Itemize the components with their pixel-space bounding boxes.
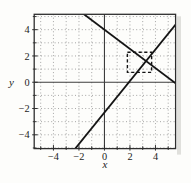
x-axis-label: x (101, 158, 107, 170)
x-tick-label: 4 (153, 151, 158, 162)
y-tick-label: 0 (25, 77, 30, 88)
x-tick-label: −2 (73, 151, 84, 162)
plot-render-root: −4−2024−4−2024 (0, 0, 191, 183)
figure: −4−2024−4−2024 y x (0, 0, 191, 183)
y-tick-label: 4 (25, 24, 30, 35)
y-axis-label: y (8, 76, 14, 88)
x-tick-label: 2 (127, 151, 132, 162)
y-tick-label: 2 (25, 51, 30, 62)
y-tick-label: −2 (19, 103, 30, 114)
plot-canvas: −4−2024−4−2024 y x (0, 0, 191, 183)
y-tick-label: −4 (19, 129, 30, 140)
frame-scan-shadow (177, 16, 181, 154)
x-tick-label: −4 (48, 151, 59, 162)
